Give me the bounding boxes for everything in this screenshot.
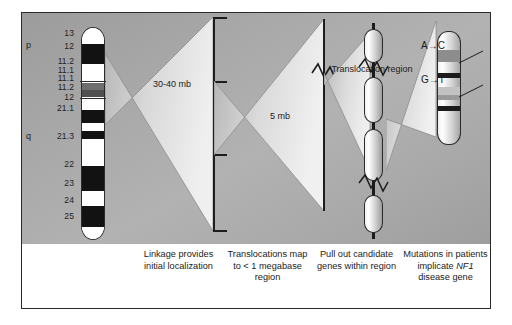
band-p13 (82, 28, 104, 44)
mutation-label-g-to-t: G→T (421, 74, 445, 85)
band-label-211: 21.1 (30, 104, 74, 113)
candidate-gene-2[interactable] (364, 77, 383, 123)
caption-genes: Pull out candidate genes within region (312, 244, 401, 308)
candidate-gene-4[interactable] (364, 195, 383, 233)
chromosome-body (81, 27, 105, 240)
mutation-label-a-to-c: A→C (421, 40, 445, 51)
band-q111 (82, 90, 104, 97)
caption-mutations-part2: disease gene (418, 272, 473, 282)
magnify-wedge-translocation (214, 13, 326, 244)
caption-translocation: Translocations map to < 1 megabase regio… (223, 244, 312, 308)
band-p112 (82, 64, 104, 83)
scale-label-translocation: 5 mb (270, 111, 290, 121)
mutation-leader-line-2 (459, 83, 485, 103)
caption-linkage: Linkage provides initial localization (134, 244, 223, 308)
band-q24 (82, 206, 104, 227)
band-label-12: 12 (30, 42, 74, 51)
band-label-25: 25 (30, 212, 74, 221)
caption-row: Linkage provides initial localization Tr… (22, 244, 490, 308)
band-q212 (82, 131, 104, 139)
diagram-artwork: 30-40 mb 5 mb (22, 13, 490, 244)
band-p111 (82, 83, 104, 90)
caption-mutations-part1: Mutations in patients implicate (403, 249, 487, 271)
band-p12 (82, 44, 104, 64)
band-label-112q: 11.2 (30, 83, 74, 92)
band-q12 (82, 110, 104, 123)
chromosome-17-ideogram[interactable] (81, 27, 105, 240)
caption-mutations: Mutations in patients implicate NF1 dise… (401, 244, 490, 308)
band-q213 (82, 139, 104, 166)
band-label-13: 13 (30, 29, 74, 38)
magnify-wedge-linkage (105, 13, 215, 244)
scale-label-linkage: 30-40 mb (153, 79, 191, 89)
band-q112 (82, 97, 104, 110)
band-q23 (82, 191, 104, 206)
band-label-213: 21.3 (30, 132, 74, 141)
band-label-23: 23 (30, 179, 74, 188)
mutation-leader-line-1 (459, 49, 485, 69)
band-q25 (82, 227, 104, 240)
band-q211 (82, 123, 104, 131)
gene-name-nf1: NF1 (456, 261, 473, 271)
figure-frame: 30-40 mb 5 mb (21, 12, 491, 309)
candidate-gene-column (361, 23, 387, 239)
band-q22 (82, 166, 104, 191)
band-label-22: 22 (30, 160, 74, 169)
band-label-24: 24 (30, 196, 74, 205)
band-label-12q: 12 (30, 93, 74, 102)
